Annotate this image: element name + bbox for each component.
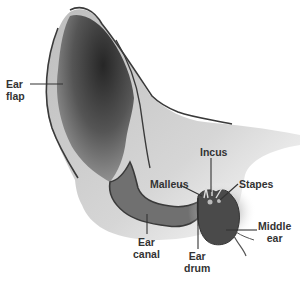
label-middle-ear-line1: Middle xyxy=(258,220,291,232)
label-ear-drum-line1: Ear xyxy=(184,250,210,262)
label-middle-ear-line2: ear xyxy=(258,232,291,244)
label-malleus: Malleus xyxy=(150,178,189,190)
middle-ear-region xyxy=(197,190,239,245)
label-ear-drum-line2: drum xyxy=(184,262,210,274)
label-middle-ear: Middle ear xyxy=(258,220,291,244)
label-incus: Incus xyxy=(200,146,227,158)
label-ear-flap: Ear flap xyxy=(6,78,25,102)
label-ear-canal: Ear canal xyxy=(133,236,160,260)
label-ear-canal-line1: Ear xyxy=(133,236,160,248)
label-ear-flap-line1: Ear xyxy=(6,78,25,90)
label-ear-drum: Ear drum xyxy=(184,250,210,274)
label-ear-canal-line2: canal xyxy=(133,248,160,260)
label-ear-flap-line2: flap xyxy=(6,90,25,102)
label-stapes: Stapes xyxy=(239,178,273,190)
